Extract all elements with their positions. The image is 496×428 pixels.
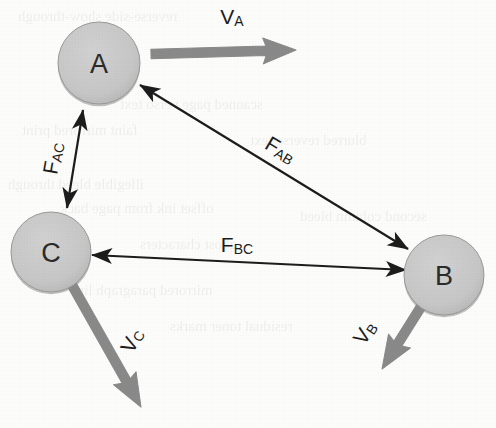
node-a: A xyxy=(58,22,140,106)
velocity-arrow-v-a xyxy=(151,37,297,67)
node-b: B xyxy=(404,235,484,317)
force-label-f-ac: FAC xyxy=(38,140,68,176)
velocity-label-v-b: VB xyxy=(348,316,381,349)
node-label: A xyxy=(90,49,108,79)
nodes-group: ACB xyxy=(11,22,484,317)
label-base: V xyxy=(220,5,234,28)
force-arrow-f-bc xyxy=(92,255,406,270)
velocity-label-v-c: VC xyxy=(115,324,148,357)
node-c: C xyxy=(11,212,91,294)
diagram-canvas: ACB FACFABFBCVAVBVC xyxy=(0,0,496,428)
force-label-f-bc: FBC xyxy=(221,233,253,258)
label-subscript: BC xyxy=(234,241,253,257)
force-velocity-diagram: reverse-side show-throughscanned page ve… xyxy=(0,0,496,428)
node-label: B xyxy=(435,261,453,291)
svg-text:VC: VC xyxy=(115,324,148,357)
velocity-label-v-a: VA xyxy=(220,5,244,30)
force-arrow-f-ab xyxy=(140,85,408,249)
node-label: C xyxy=(41,238,61,268)
force-arrow-f-ac xyxy=(67,110,83,208)
label-subscript: AC xyxy=(48,142,67,164)
svg-text:VB: VB xyxy=(348,316,381,349)
svg-text:VA: VA xyxy=(220,5,244,30)
svg-text:FAC: FAC xyxy=(38,140,68,176)
label-base: F xyxy=(221,233,234,256)
label-subscript: A xyxy=(234,13,244,29)
svg-text:FBC: FBC xyxy=(221,233,253,258)
